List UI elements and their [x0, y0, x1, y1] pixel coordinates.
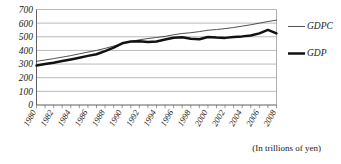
x-tick-label: 2008 — [261, 107, 279, 127]
x-tick-label: 2004 — [227, 107, 245, 127]
legend: GDPC GDP — [288, 21, 334, 58]
x-tick-label: 1988 — [90, 107, 108, 127]
y-tick-label: 600 — [19, 19, 34, 29]
x-tick-label: 2006 — [244, 107, 262, 127]
x-axis-ticks — [37, 105, 277, 108]
legend-item-gdpc[interactable]: GDPC — [288, 21, 334, 31]
legend-label-gdpc: GDPC — [307, 21, 334, 31]
x-tick-label: 1982 — [38, 107, 56, 127]
x-tick-label: 1996 — [158, 107, 176, 127]
x-tick-label: 1986 — [72, 107, 90, 127]
y-tick-label: 700 — [19, 5, 34, 15]
x-tick-label: 1994 — [141, 107, 159, 127]
legend-label-gdp: GDP — [307, 48, 327, 58]
x-tick-label: 1998 — [175, 107, 193, 127]
units-caption: (In trillions of yen) — [252, 143, 321, 153]
x-tick-label: 1992 — [124, 107, 142, 127]
plot-area-background — [37, 10, 277, 106]
legend-item-gdp[interactable]: GDP — [288, 48, 327, 58]
y-tick-label: 400 — [19, 46, 34, 56]
y-tick-label: 100 — [19, 87, 34, 97]
x-tick-label: 1980 — [21, 107, 39, 127]
y-axis-tick-labels: 7006005004003002001000 — [18, 5, 34, 111]
y-tick-label: 200 — [19, 73, 34, 83]
x-axis-tick-labels: 1980198219841986198819901992199419961998… — [21, 107, 279, 127]
chart-canvas: 7006005004003002001000 19801982198419861… — [0, 0, 341, 164]
gdp-line-chart: 7006005004003002001000 19801982198419861… — [0, 0, 341, 164]
x-tick-label: 1990 — [107, 107, 125, 127]
y-tick-label: 300 — [18, 59, 34, 69]
x-tick-label: 2002 — [210, 107, 228, 127]
x-tick-label: 2000 — [192, 107, 210, 127]
x-tick-label: 1984 — [55, 107, 73, 127]
y-tick-label: 500 — [19, 32, 34, 42]
